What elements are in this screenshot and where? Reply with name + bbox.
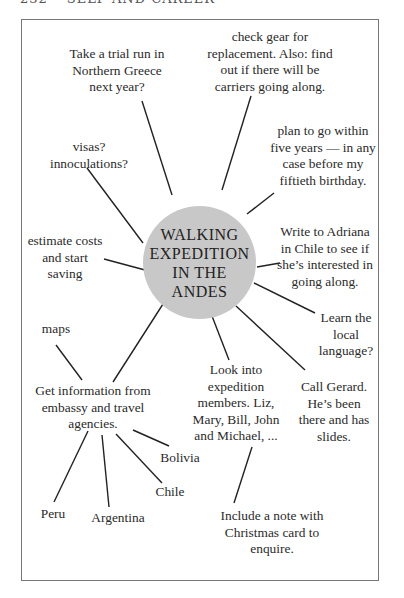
node-plan: plan to go within five years — in any ca… [262, 123, 384, 189]
node-get-info: Get information from embassy and travel … [28, 383, 158, 433]
line-christmas [234, 447, 252, 503]
line-info [113, 304, 163, 382]
node-peru: Peru [36, 506, 70, 523]
line-gerard [236, 306, 305, 370]
line-gear [222, 96, 251, 190]
node-bolivia: Bolivia [158, 450, 202, 467]
line-argentina [102, 435, 109, 507]
central-topic-label: WALKING EXPEDITION IN THE ANDES [149, 225, 249, 301]
line-visas [87, 168, 143, 243]
line-members [212, 316, 229, 360]
line-maps [56, 345, 82, 380]
line-plan [247, 193, 274, 214]
node-trial-run: Take a trial run in Northern Greece next… [52, 46, 182, 96]
line-peru [54, 431, 88, 502]
node-visas: visas? innoculations? [42, 139, 136, 172]
line-costs [104, 259, 145, 270]
node-christmas: Include a note with Christmas card to en… [210, 508, 334, 558]
node-chile: Chile [153, 484, 187, 501]
node-gerard: Call Gerard. He’s been there and has sli… [292, 379, 376, 445]
line-trial-run [142, 101, 172, 195]
node-language: Learn the local language? [308, 310, 384, 360]
node-argentina: Argentina [88, 510, 148, 527]
node-adriana: Write to Adriana in Chile to see if she’… [265, 224, 385, 290]
node-gear: check gear for replacement. Also: find o… [200, 29, 340, 95]
line-chile [116, 434, 162, 483]
node-maps: maps [36, 321, 76, 338]
node-costs: estimate costs and start saving [20, 233, 110, 283]
node-members: Look into expedition members. Liz, Mary,… [186, 362, 286, 445]
central-topic: WALKING EXPEDITION IN THE ANDES [143, 206, 256, 319]
